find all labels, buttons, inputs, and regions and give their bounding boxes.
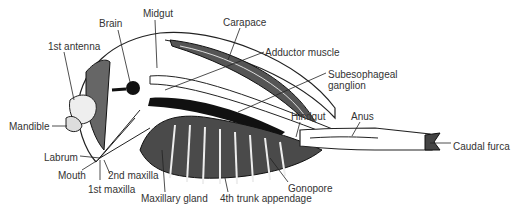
label-first-antenna: 1st antenna [48,41,100,52]
label-mouth: Mouth [58,170,86,181]
caudal-furca-shape [425,133,440,150]
label-subesophageal-ganglion-2: ganglion [328,80,366,91]
label-midgut: Midgut [143,8,173,19]
label-carapace: Carapace [223,17,266,28]
label-mandible: Mandible [9,121,50,132]
label-caudal-furca: Caudal furca [453,141,510,152]
label-subesophageal-ganglion: Subesophageal [328,69,398,80]
abdomen [300,128,432,150]
label-anus: Anus [351,111,374,122]
label-fourth-trunk-appendage: 4th trunk appendage [220,193,312,204]
label-hindgut: Hindgut [291,111,325,122]
label-first-maxilla: 1st maxilla [88,184,135,195]
crustacean-anatomy-diagram [0,0,515,213]
label-maxillary-gland: Maxillary gland [141,193,208,204]
brain-shape [126,81,140,95]
label-labrum: Labrum [44,152,78,163]
label-brain: Brain [99,18,122,29]
label-adductor-muscle: Adductor muscle [265,47,339,58]
label-second-maxilla: 2nd maxilla [108,170,159,181]
trunk-body [140,116,322,178]
